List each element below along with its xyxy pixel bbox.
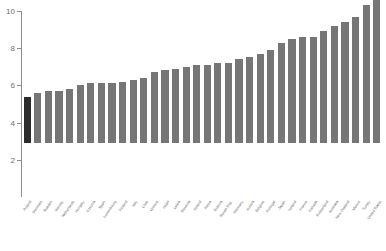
- bar: [55, 91, 62, 143]
- y-tick-label: 10: [0, 7, 15, 16]
- bar-chart-figure: 246810 PolandDenmarkSwedenNorwayNetherla…: [0, 0, 386, 251]
- bar: [235, 59, 242, 143]
- bar: [363, 5, 370, 143]
- bar: [246, 57, 253, 143]
- bar: [34, 93, 41, 143]
- x-axis-label: Hungary: [74, 200, 85, 213]
- bar: [119, 82, 126, 143]
- bar: [267, 50, 274, 143]
- x-axis-label: Latvia: [172, 200, 181, 210]
- x-axis-label: Austria: [245, 200, 255, 211]
- x-axis-label: Czechia: [85, 200, 96, 213]
- bar: [331, 26, 338, 143]
- bar: [310, 37, 317, 143]
- x-axis-label: Norway: [54, 200, 64, 212]
- y-tick-label: 6: [0, 81, 15, 90]
- bar: [288, 39, 295, 143]
- bar: [225, 63, 232, 143]
- x-axis-label: Italy: [131, 200, 138, 208]
- x-axis-label: Korea: [204, 200, 213, 210]
- x-axis-label: Japan: [278, 200, 287, 210]
- x-axis-label: Israel: [162, 200, 170, 210]
- bar: [87, 83, 94, 143]
- bar: [66, 89, 73, 143]
- x-axis-label: France: [298, 200, 308, 211]
- x-axis-label: Denmark: [32, 200, 44, 214]
- bar: [108, 83, 115, 143]
- bar: [130, 80, 137, 143]
- y-tick-label: 4: [0, 119, 15, 128]
- y-tick-label: 8: [0, 44, 15, 53]
- bar: [257, 54, 264, 143]
- bar: [77, 85, 84, 143]
- x-axis-label: Belgium: [255, 200, 266, 213]
- bar: [341, 22, 348, 143]
- bar: [24, 97, 31, 144]
- x-axis-label: Portugal: [265, 200, 276, 213]
- bar: [214, 63, 221, 143]
- bar: [320, 31, 327, 143]
- x-axis-label: Ireland: [192, 200, 202, 211]
- bar: [172, 69, 179, 143]
- bar: [161, 70, 168, 143]
- x-axis-label: Finland: [118, 200, 128, 212]
- bar: [204, 65, 211, 143]
- x-axis-label: Germany: [233, 200, 245, 214]
- bar: [98, 83, 105, 143]
- bar: [183, 67, 190, 143]
- x-axis-label: Chile: [141, 200, 149, 209]
- bar: [151, 72, 158, 143]
- x-axis-label: Slovenia: [180, 200, 191, 214]
- x-axis-label: Sweden: [43, 200, 54, 213]
- bar: [373, 0, 380, 143]
- bar: [140, 78, 147, 143]
- x-axis-category-labels: PolandDenmarkSwedenNorwayNetherlandsHung…: [22, 198, 382, 251]
- bar-series: [22, 0, 382, 197]
- x-axis-label: Greece: [150, 200, 160, 212]
- x-axis-label: Poland: [23, 200, 33, 211]
- bar: [193, 65, 200, 143]
- x-axis-label: Spain: [98, 200, 107, 210]
- x-axis-label: Mexico: [351, 200, 361, 212]
- y-tick-label: 2: [0, 156, 15, 165]
- x-axis-label: Iceland: [287, 200, 297, 212]
- bar: [352, 17, 359, 143]
- bar: [299, 37, 306, 143]
- bar: [45, 91, 52, 143]
- bar: [278, 43, 285, 143]
- x-axis-label: Turkey: [362, 200, 372, 211]
